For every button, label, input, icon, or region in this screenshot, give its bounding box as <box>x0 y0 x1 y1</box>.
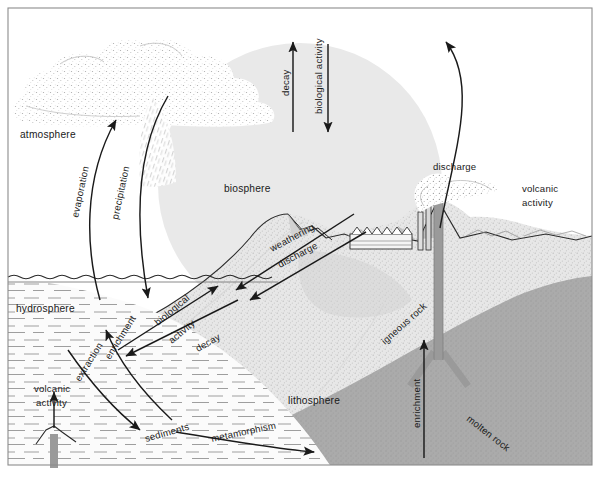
label-lithosphere: lithosphere <box>288 395 340 406</box>
label-volcanic-activity-seafloor-2: activity <box>36 397 67 408</box>
label-discharge-volcanic: discharge <box>433 161 476 172</box>
label-biological-biosphere: biological activity <box>313 38 324 114</box>
label-decay-biosphere: decay <box>280 69 291 96</box>
label-enrichment-magma: enrichment <box>411 378 422 428</box>
diagram-canvas: atmosphere biosphere hydrosphere lithosp… <box>0 0 600 479</box>
label-biosphere: biosphere <box>224 183 271 194</box>
label-atmosphere: atmosphere <box>20 129 76 140</box>
label-volcanic-activity-land-2: activity <box>522 197 553 208</box>
label-hydrosphere: hydrosphere <box>16 303 75 314</box>
label-volcanic-activity-seafloor: volcanic <box>34 383 70 394</box>
geochemical-cycle-diagram: atmosphere biosphere hydrosphere lithosp… <box>0 0 600 479</box>
label-volcanic-activity-land: volcanic <box>522 183 558 194</box>
